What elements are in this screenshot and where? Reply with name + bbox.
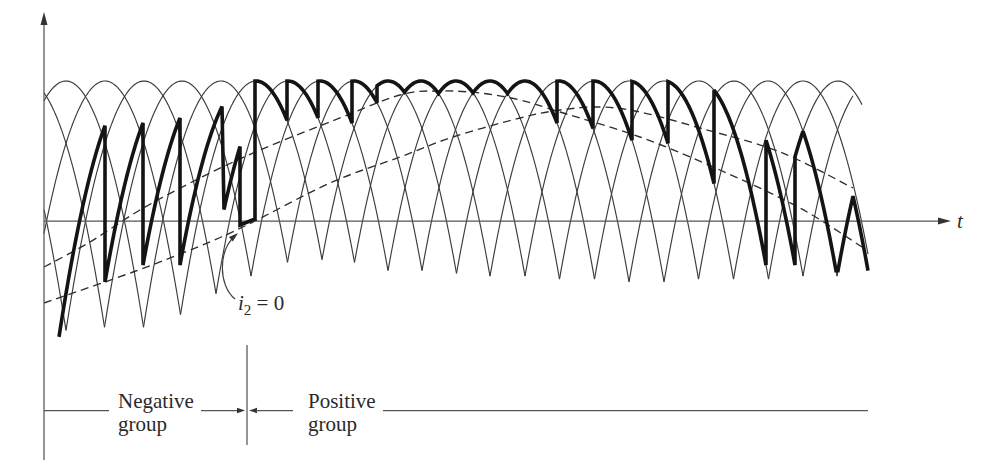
- source-voltage-curves: [44, 81, 868, 330]
- source-voltage-arch: [422, 81, 560, 279]
- reference-signal-a: [44, 91, 862, 267]
- source-voltage-arch: [769, 81, 863, 279]
- current-zero-annotation: i2 = 0: [222, 233, 284, 318]
- source-voltage-arch: [388, 81, 525, 276]
- source-voltage-arch: [803, 96, 853, 276]
- negative-group-label-line2: group: [118, 412, 167, 436]
- source-voltage-arch: [355, 81, 491, 276]
- positive-group-label-line2: group: [308, 412, 357, 436]
- source-voltage-arch: [560, 81, 699, 279]
- positive-group-arrow-icon: [249, 408, 257, 413]
- group-brackets: Negative group Positive group: [44, 345, 868, 445]
- source-voltage-arch: [288, 81, 423, 271]
- annotation-label: i2 = 0: [238, 291, 284, 318]
- positive-group-label-line1: Positive: [308, 389, 376, 413]
- source-voltage-arch: [664, 81, 803, 282]
- annotation-subscript: 2: [244, 302, 252, 318]
- negative-group-label-line1: Negative: [118, 389, 194, 413]
- source-voltage-arch: [457, 81, 595, 279]
- x-axis-label: t: [957, 209, 964, 233]
- source-voltage-arch: [105, 81, 252, 327]
- annotation-value: = 0: [251, 291, 284, 315]
- source-voltage-arch: [322, 81, 457, 273]
- source-voltage-arch: [734, 81, 869, 279]
- source-voltage-arch: [490, 81, 629, 282]
- negative-group-arrow-icon: [237, 408, 245, 413]
- waveform-figure: t i2 = 0 Negative group Positive group: [0, 0, 999, 472]
- x-axis-arrow-icon: [938, 218, 951, 225]
- y-axis-arrow-icon: [41, 12, 48, 25]
